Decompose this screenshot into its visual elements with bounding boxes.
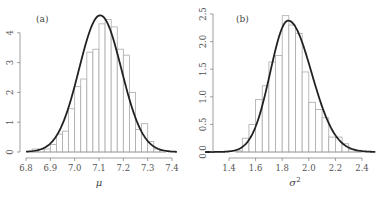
y-tick-label: 0.0 <box>198 145 208 159</box>
histogram-bar <box>87 52 93 152</box>
y-tick-label: 1.5 <box>198 62 208 76</box>
histogram-bar <box>296 33 303 152</box>
histogram-bars <box>32 19 166 152</box>
y-axis: 0.00.51.01.52.02.5 <box>198 7 213 159</box>
x-tick-label: 6.8 <box>19 163 33 173</box>
y-tick-label: 1.0 <box>198 90 208 104</box>
panel-label: (b) <box>236 14 249 24</box>
y-axis: 01234 <box>5 30 20 155</box>
panel-b-sigma2-histogram: 1.41.61.82.02.22.40.00.51.01.52.02.5(b)σ… <box>198 7 375 188</box>
histogram-bar <box>315 110 322 153</box>
x-axis: 1.41.61.82.02.22.4 <box>222 158 369 173</box>
x-axis: 6.86.97.07.17.27.37.4 <box>19 158 179 173</box>
x-axis-title: σ2 <box>289 176 300 188</box>
histogram-bar <box>329 137 336 152</box>
panel-label: (a) <box>36 14 48 24</box>
histogram-bar <box>56 134 62 152</box>
y-tick-label: 3 <box>5 60 15 65</box>
histogram-figure: 6.86.97.07.17.27.37.401234(a)μ 1.41.61.8… <box>0 0 387 201</box>
histogram-bar <box>75 86 81 152</box>
x-tick-label: 1.6 <box>249 163 263 173</box>
x-tick-label: 1.4 <box>222 163 236 173</box>
histogram-bar <box>111 27 117 152</box>
x-tick-label: 6.9 <box>44 163 58 173</box>
x-axis-title: μ <box>96 177 103 188</box>
histogram-bar <box>289 25 296 152</box>
histogram-bar <box>69 109 75 152</box>
panel-a-mu-histogram: 6.86.97.07.17.27.37.401234(a)μ <box>5 14 179 188</box>
histogram-bar <box>309 102 316 152</box>
y-tick-label: 2.5 <box>198 7 208 21</box>
y-tick-label: 0.5 <box>198 118 208 132</box>
x-tick-label: 1.8 <box>275 163 289 173</box>
histogram-bar <box>99 24 105 152</box>
histogram-bar <box>50 145 56 152</box>
histogram-bar <box>105 19 111 152</box>
x-tick-label: 2.2 <box>329 163 343 173</box>
x-tick-label: 7.3 <box>141 163 155 173</box>
y-tick-label: 2 <box>5 90 15 95</box>
y-tick-label: 0 <box>5 149 15 154</box>
y-tick-label: 2.0 <box>198 35 208 49</box>
histogram-bar <box>302 72 309 152</box>
x-tick-label: 2.4 <box>355 163 369 173</box>
y-tick-label: 1 <box>5 119 15 124</box>
histogram-bar <box>282 16 289 152</box>
histogram-bar <box>44 149 50 152</box>
x-tick-label: 2.0 <box>302 163 316 173</box>
y-tick-label: 4 <box>5 30 15 35</box>
histogram-bar <box>63 131 69 152</box>
x-tick-label: 7.0 <box>68 163 82 173</box>
histogram-bar <box>136 130 142 152</box>
histogram-bar <box>93 49 99 152</box>
histogram-bar <box>123 55 129 152</box>
histogram-bar <box>81 79 87 152</box>
x-tick-label: 7.1 <box>92 163 106 173</box>
histogram-bars <box>236 16 362 152</box>
x-tick-label: 7.2 <box>117 163 131 173</box>
figure: 6.86.97.07.17.27.37.401234(a)μ 1.41.61.8… <box>0 0 387 201</box>
histogram-bar <box>276 55 283 152</box>
x-tick-label: 7.4 <box>165 163 179 173</box>
